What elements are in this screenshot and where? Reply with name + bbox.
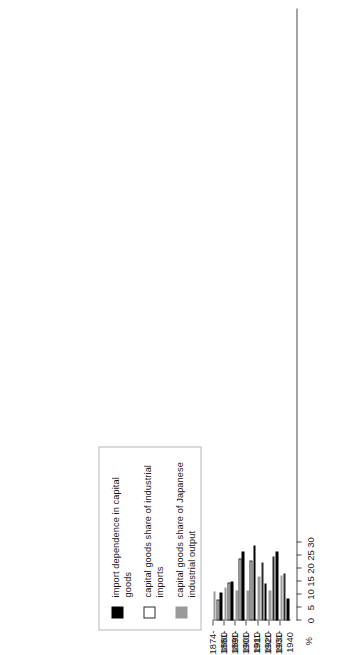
bar-chart-figure: import dependence in capital goods capit… bbox=[0, 0, 337, 655]
bar bbox=[268, 590, 271, 620]
category-tick bbox=[234, 620, 235, 625]
value-axis-rule bbox=[296, 8, 297, 620]
bar bbox=[230, 581, 233, 620]
bars-layer bbox=[212, 8, 290, 620]
bar bbox=[264, 583, 267, 620]
value-tick bbox=[296, 580, 301, 581]
bar bbox=[253, 545, 256, 620]
value-tick-label: 15 bbox=[304, 576, 315, 587]
bar bbox=[219, 592, 222, 620]
category-tick bbox=[212, 620, 213, 625]
category-tick bbox=[245, 620, 246, 625]
bar bbox=[257, 576, 260, 620]
value-tick bbox=[296, 567, 301, 568]
bar bbox=[235, 590, 238, 620]
category-tick bbox=[268, 620, 269, 625]
category-tick bbox=[279, 620, 280, 625]
chart-rotator: import dependence in capital goods capit… bbox=[0, 0, 337, 655]
bar bbox=[246, 590, 249, 620]
legend-entry-industrial-imports: capital goods share of industrial import… bbox=[142, 457, 165, 618]
category-tick bbox=[257, 620, 258, 625]
category-tick bbox=[223, 620, 224, 625]
bar bbox=[249, 560, 252, 620]
legend-swatch-gray-icon bbox=[175, 606, 187, 618]
legend-label-0: import dependence in capital goods bbox=[110, 457, 133, 597]
value-tick bbox=[296, 619, 301, 620]
legend-swatch-black-icon bbox=[111, 606, 123, 618]
value-tick bbox=[296, 554, 301, 555]
category-label: 1931- 1940 bbox=[273, 630, 295, 654]
legend-entry-industrial-output: capital goods share of Japanese industri… bbox=[174, 457, 197, 618]
value-tick bbox=[296, 606, 301, 607]
bar bbox=[224, 587, 227, 620]
bar bbox=[283, 573, 286, 620]
value-tick bbox=[296, 541, 301, 542]
bar bbox=[272, 556, 275, 620]
value-tick bbox=[296, 593, 301, 594]
bar bbox=[213, 591, 216, 620]
value-tick-label: 5 bbox=[304, 604, 315, 609]
value-tick-label: 0 bbox=[304, 617, 315, 622]
legend-label-2: capital goods share of Japanese industri… bbox=[174, 457, 197, 597]
bar bbox=[275, 551, 278, 620]
bar bbox=[286, 598, 289, 620]
legend-label-1: capital goods share of industrial import… bbox=[142, 457, 165, 597]
bar bbox=[241, 551, 244, 620]
bar bbox=[227, 582, 230, 620]
value-tick-label: 25 bbox=[304, 550, 315, 561]
bar bbox=[261, 562, 264, 620]
value-axis: 051015202530 bbox=[296, 8, 326, 620]
chart-legend: import dependence in capital goods capit… bbox=[98, 446, 201, 630]
value-tick-label: 10 bbox=[304, 589, 315, 600]
plot-area bbox=[212, 8, 290, 620]
bar bbox=[216, 599, 219, 620]
legend-entry-import-dependence: import dependence in capital goods bbox=[110, 457, 133, 618]
value-tick-label: 30 bbox=[304, 537, 315, 548]
value-tick-label: 20 bbox=[304, 563, 315, 574]
legend-swatch-white-icon bbox=[143, 606, 155, 618]
bar bbox=[238, 558, 241, 620]
axis-unit-label: % bbox=[302, 637, 313, 645]
bar bbox=[280, 575, 283, 620]
